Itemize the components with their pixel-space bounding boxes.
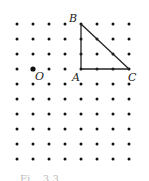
grid-dot <box>112 143 115 146</box>
grid-dot <box>112 83 115 86</box>
grid-dot <box>16 158 19 161</box>
grid-dot <box>112 23 115 26</box>
grid-dot <box>128 38 131 41</box>
grid-dot <box>16 68 19 71</box>
grid-dot <box>64 68 67 71</box>
grid-dot <box>64 38 67 41</box>
label-o: O <box>35 70 44 83</box>
label-a: A <box>71 71 80 84</box>
label-b: B <box>68 12 77 25</box>
grid-dot <box>64 128 67 131</box>
triangle-abc <box>81 24 129 69</box>
grid-dot <box>48 83 51 86</box>
grid-dot <box>48 143 51 146</box>
grid-dot <box>96 53 99 56</box>
grid-dot <box>64 98 67 101</box>
grid-dot <box>96 158 99 161</box>
label-c: C <box>128 71 137 84</box>
grid-dot <box>16 38 19 41</box>
dot-grid-diagram: B A C O Fi... 3.3 <box>0 0 149 181</box>
grid-dot <box>112 158 115 161</box>
grid-dot <box>96 128 99 131</box>
grid-dot <box>80 98 83 101</box>
grid-dot <box>64 53 67 56</box>
grid-dot <box>128 143 131 146</box>
grid-dot <box>48 158 51 161</box>
grid-dots <box>16 23 131 161</box>
grid-dot <box>48 98 51 101</box>
grid-dot <box>16 98 19 101</box>
grid-dot <box>96 23 99 26</box>
grid-dot <box>112 128 115 131</box>
grid-dot <box>48 53 51 56</box>
grid-dot <box>64 143 67 146</box>
grid-dot <box>48 23 51 26</box>
grid-dot <box>80 113 83 116</box>
grid-dot <box>32 143 35 146</box>
segment-bc <box>81 24 129 69</box>
grid-dot <box>16 83 19 86</box>
grid-dot <box>96 143 99 146</box>
grid-dot <box>32 158 35 161</box>
grid-dot <box>32 98 35 101</box>
grid-dot <box>48 38 51 41</box>
grid-dot <box>128 23 131 26</box>
grid-dot <box>96 113 99 116</box>
grid-dot <box>80 143 83 146</box>
grid-dot <box>16 113 19 116</box>
grid-dot <box>128 128 131 131</box>
grid-dot <box>48 68 51 71</box>
grid-dot <box>64 23 67 26</box>
grid-dot <box>48 128 51 131</box>
grid-dot <box>128 98 131 101</box>
grid-dot <box>112 113 115 116</box>
grid-dot <box>32 38 35 41</box>
grid-dot <box>32 128 35 131</box>
grid-dot <box>64 113 67 116</box>
grid-dot <box>32 113 35 116</box>
grid-dot <box>96 83 99 86</box>
grid-dot <box>128 113 131 116</box>
grid-dot <box>48 113 51 116</box>
grid-dot <box>112 98 115 101</box>
grid-dot <box>16 128 19 131</box>
grid-dot <box>64 158 67 161</box>
grid-dot <box>32 53 35 56</box>
grid-dot <box>80 158 83 161</box>
grid-dot <box>128 53 131 56</box>
grid-dot <box>64 83 67 86</box>
grid-dot <box>16 23 19 26</box>
figure-caption: Fi... 3.3 <box>20 173 59 181</box>
grid-dot <box>16 53 19 56</box>
grid-dot <box>128 158 131 161</box>
grid-dot <box>112 38 115 41</box>
grid-dot <box>16 143 19 146</box>
grid-dot <box>80 128 83 131</box>
grid-dot <box>32 23 35 26</box>
grid-dot <box>96 98 99 101</box>
